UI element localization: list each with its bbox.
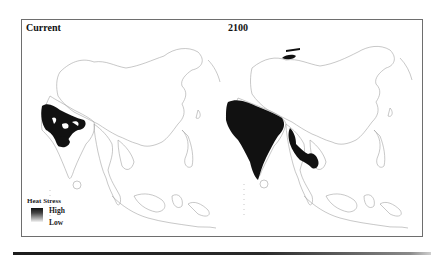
indonesia-outline: [112, 196, 216, 228]
sri-lanka-outline: [260, 180, 268, 188]
page-rule: [13, 252, 431, 255]
legend-gradient-ramp: [31, 208, 43, 222]
map-2100: [222, 20, 424, 238]
se-asia-outline: [94, 124, 121, 205]
sri-lanka-outline: [73, 181, 81, 189]
tibet-patch-1: [286, 48, 300, 52]
legend-high-label: High: [49, 206, 65, 215]
heat-stress-2100: [226, 48, 319, 180]
tibet-patch-2: [282, 55, 296, 60]
philippines-outline: [374, 130, 385, 167]
legend: Heat Stress High Low: [27, 197, 87, 237]
philippines-outline: [182, 130, 193, 167]
legend-title: Heat Stress: [27, 197, 61, 205]
indonesia-outline: [304, 196, 408, 228]
legend-low-label: Low: [49, 218, 63, 227]
figure-frame: Current: [21, 19, 423, 237]
china-outline: [57, 49, 203, 147]
